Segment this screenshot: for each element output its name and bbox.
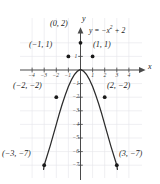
point-label-3-neg7: (3, −7) xyxy=(119,150,142,158)
y-tick-neg2: −2 xyxy=(73,94,80,100)
point-neg2-neg2 xyxy=(54,95,58,99)
x-tick-2: 2 xyxy=(103,73,106,79)
y-axis xyxy=(78,27,84,180)
y-tick-neg3: −3 xyxy=(73,108,80,114)
point-3-neg7 xyxy=(115,163,119,167)
point-1-1 xyxy=(91,55,95,59)
x-tick-3: 3 xyxy=(116,73,119,79)
point-label-2-neg2: (2, −2) xyxy=(107,82,130,90)
y-tick-neg6: −6 xyxy=(73,149,80,155)
x-tick-neg1: −1 xyxy=(65,73,72,79)
point-neg3-neg7 xyxy=(42,163,46,167)
point-2-neg2 xyxy=(103,95,107,99)
equation-text: y = −x xyxy=(89,26,110,35)
point-neg1-1 xyxy=(67,55,71,59)
x-axis-label: x xyxy=(148,63,152,71)
x-tick-neg4: −4 xyxy=(28,73,35,79)
point-label-neg3-neg7: (−3, −7) xyxy=(2,150,31,158)
point-label-0-2: (0, 2) xyxy=(50,20,68,28)
parabola-figure: (0, 2) (−1, 1) (1, 1) (−2, −2) (2, −2) (… xyxy=(0,0,160,184)
y-tick-neg1: −1 xyxy=(73,81,80,87)
y-tick-neg7: −7 xyxy=(73,162,80,168)
point-label-neg2-neg2: (−2, −2) xyxy=(13,82,42,90)
y-tick-neg5: −5 xyxy=(73,135,80,141)
point-0-2 xyxy=(79,41,83,45)
x-tick-neg2: −2 xyxy=(53,73,60,79)
y-tick-1: 1 xyxy=(75,54,78,60)
point-label-1-1: (1, 1) xyxy=(93,41,111,49)
equation-tail: + 2 xyxy=(113,26,126,35)
x-tick-1: 1 xyxy=(91,73,94,79)
point-label-neg1-1: (−1, 1) xyxy=(29,41,52,49)
y-tick-neg4: −4 xyxy=(73,122,80,128)
equation-label: y = −x2 + 2 xyxy=(89,25,125,34)
x-tick-4: 4 xyxy=(128,73,131,79)
y-axis-label: y xyxy=(82,15,86,23)
x-tick-neg3: −3 xyxy=(40,73,47,79)
